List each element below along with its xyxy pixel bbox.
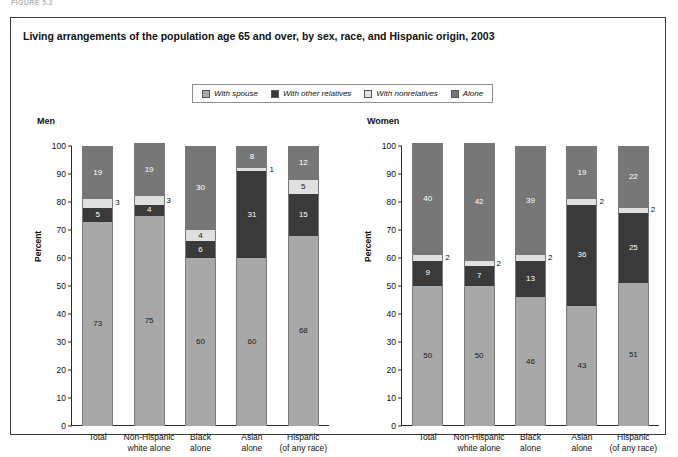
y-tick-mark xyxy=(398,202,402,203)
bar-group: 603118 xyxy=(226,146,277,426)
bars-women: 509240507242461323943362195125222 xyxy=(402,146,659,426)
bar-segment-spouse: 50 xyxy=(412,286,443,426)
stacked-bar[interactable]: 754319 xyxy=(134,146,165,426)
bar-segment-spouse: 75 xyxy=(134,216,165,426)
bar-segment-alone: 12 xyxy=(288,146,319,180)
x-label-line2: alone xyxy=(175,443,226,454)
y-axis-label-women: Percent xyxy=(363,231,373,262)
x-label-line1: Asian xyxy=(556,432,607,443)
bar-value-label: 1 xyxy=(269,166,273,174)
y-tick-mark xyxy=(398,426,402,427)
x-label-line2: (of any race) xyxy=(608,443,659,454)
x-axis-labels-men: TotalNon-Hispanicwhite aloneBlackaloneAs… xyxy=(72,432,329,454)
bar-segment-other: 36 xyxy=(566,205,597,306)
bar-value-label: 25 xyxy=(619,244,648,252)
y-tick-mark xyxy=(68,230,72,231)
y-tick-mark xyxy=(398,146,402,147)
legend-swatch-icon xyxy=(364,90,372,98)
bar-value-label: 3 xyxy=(115,199,119,207)
legend-label: Alone xyxy=(463,89,483,98)
stacked-bar[interactable]: 4336219 xyxy=(566,146,597,426)
bar-segment-spouse: 60 xyxy=(185,258,216,426)
x-label-line1: Black xyxy=(175,432,226,443)
bar-segment-nonrel: 2 xyxy=(618,208,649,214)
panel-title-women: Women xyxy=(367,116,665,126)
bar-value-label: 19 xyxy=(567,169,596,177)
bar-segment-spouse: 50 xyxy=(464,286,495,426)
x-label-line2: white alone xyxy=(453,443,504,454)
legend-item-2: With nonrelatives xyxy=(364,89,437,98)
bar-value-label: 7 xyxy=(465,272,494,280)
bar-segment-nonrel: 3 xyxy=(82,199,113,207)
bar-value-label: 2 xyxy=(651,206,655,214)
x-axis-category-label: Blackalone xyxy=(505,432,556,454)
y-tick-mark xyxy=(68,398,72,399)
bar-segment-other: 7 xyxy=(464,266,495,286)
bar-value-label: 9 xyxy=(413,269,442,277)
x-label-line1: Non-Hispanic xyxy=(123,432,174,443)
stacked-bar[interactable]: 509240 xyxy=(412,146,443,426)
bar-segment-spouse: 51 xyxy=(618,283,649,426)
bar-value-label: 50 xyxy=(465,352,494,360)
x-axis-category-label: Hispanic(of any race) xyxy=(608,432,659,454)
bar-segment-nonrel: 2 xyxy=(464,261,495,267)
stacked-bar[interactable]: 5125222 xyxy=(618,146,649,426)
y-tick-mark xyxy=(398,230,402,231)
bar-segment-alone: 30 xyxy=(185,146,216,230)
x-axis-category-label: Asianalone xyxy=(556,432,607,454)
stacked-bar[interactable]: 4613239 xyxy=(515,146,546,426)
bar-segment-other: 25 xyxy=(618,213,649,283)
y-tick-mark xyxy=(68,426,72,427)
legend-swatch-icon xyxy=(271,90,279,98)
bar-segment-other: 4 xyxy=(134,205,165,216)
bar-value-label: 19 xyxy=(83,169,112,177)
bar-group: 735319 xyxy=(72,146,123,426)
legend-label: With other relatives xyxy=(283,89,351,98)
legend-label: With spouse xyxy=(214,89,258,98)
x-label-line2: alone xyxy=(226,443,277,454)
figure-frame: Living arrangements of the population ag… xyxy=(10,17,666,435)
bar-value-label: 19 xyxy=(135,166,164,174)
y-tick-mark xyxy=(398,398,402,399)
bar-segment-alone: 19 xyxy=(134,143,165,196)
stacked-bar[interactable]: 6815512 xyxy=(288,146,319,426)
axis-men: 7353197543196064306031186815512 01020304… xyxy=(71,146,329,426)
y-tick-mark xyxy=(68,314,72,315)
bar-value-label: 36 xyxy=(567,251,596,259)
bar-value-label: 68 xyxy=(289,327,318,335)
stacked-bar[interactable]: 606430 xyxy=(185,146,216,426)
bar-segment-alone: 40 xyxy=(412,143,443,255)
y-tick-mark xyxy=(68,286,72,287)
x-label-line1: Total xyxy=(72,432,123,443)
legend-label: With nonrelatives xyxy=(376,89,437,98)
panel-women: Women Percent 50924050724246132394336219… xyxy=(365,116,665,457)
bar-group: 6815512 xyxy=(278,146,329,426)
bar-segment-spouse: 60 xyxy=(236,258,267,426)
bar-value-label: 31 xyxy=(237,211,266,219)
bar-segment-other: 5 xyxy=(82,208,113,222)
y-tick-mark xyxy=(68,202,72,203)
x-axis-category-label: Total xyxy=(402,432,453,454)
bar-group: 509240 xyxy=(402,146,453,426)
bar-segment-alone: 39 xyxy=(515,146,546,255)
stacked-bar[interactable]: 507242 xyxy=(464,146,495,426)
x-label-line1: Asian xyxy=(226,432,277,443)
y-tick-mark xyxy=(398,370,402,371)
bar-value-label: 39 xyxy=(516,197,545,205)
bar-segment-other: 13 xyxy=(515,261,546,297)
x-axis-category-label: Non-Hispanicwhite alone xyxy=(123,432,174,454)
bar-value-label: 51 xyxy=(619,351,648,359)
bar-group: 606430 xyxy=(175,146,226,426)
x-label-line2: alone xyxy=(556,443,607,454)
bar-value-label: 40 xyxy=(413,195,442,203)
legend-item-1: With other relatives xyxy=(271,89,351,98)
x-label-line1: Black xyxy=(505,432,556,443)
bar-value-label: 60 xyxy=(237,338,266,346)
bar-segment-alone: 22 xyxy=(618,146,649,208)
y-tick-mark xyxy=(68,174,72,175)
x-axis-category-label: Blackalone xyxy=(175,432,226,454)
stacked-bar[interactable]: 735319 xyxy=(82,146,113,426)
bar-value-label: 22 xyxy=(619,173,648,181)
bar-group: 5125222 xyxy=(608,146,659,426)
stacked-bar[interactable]: 603118 xyxy=(236,146,267,426)
